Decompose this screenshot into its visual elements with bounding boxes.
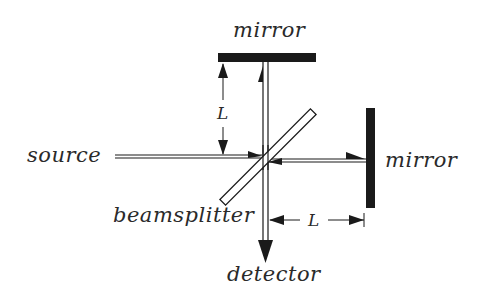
label-mirror-right: mirror	[385, 150, 457, 171]
label-L-horizontal: L	[308, 212, 319, 229]
right-mirror	[366, 108, 375, 208]
right-arm-beam	[266, 152, 366, 165]
label-detector: detector	[227, 264, 321, 285]
arrow-up-icon	[258, 66, 263, 82]
arrow-down-icon	[258, 240, 273, 263]
label-L-vertical: L	[217, 105, 228, 122]
label-source: source	[27, 145, 101, 166]
michelson-interferometer-diagram: mirror mirror source beamsplitter detect…	[0, 0, 477, 295]
source-beam	[115, 151, 262, 158]
arrow-right-icon	[346, 152, 365, 159]
label-mirror-top: mirror	[233, 20, 305, 41]
top-mirror	[218, 53, 316, 62]
label-beamsplitter: beamsplitter	[113, 205, 254, 226]
